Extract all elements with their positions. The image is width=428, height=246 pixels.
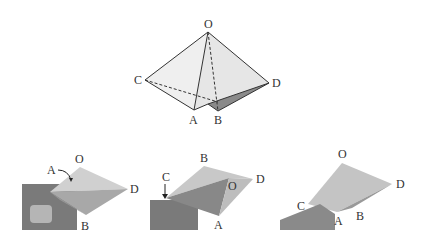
label-A: A — [47, 163, 56, 177]
label-B: B — [214, 113, 222, 127]
label-C: C — [162, 170, 170, 184]
pyramid-folding-figure: O C D A B O A D B B C D O A O — [0, 0, 428, 246]
photo-1: O A D B — [22, 152, 139, 233]
label-C: C — [297, 199, 305, 213]
label-D: D — [396, 177, 405, 191]
photo-2: B C D O A — [150, 151, 265, 232]
photo-3: O D C A B — [280, 147, 405, 230]
label-B: B — [356, 209, 364, 223]
top-pyramid-diagram: O C D A B — [134, 17, 281, 127]
label-O: O — [204, 17, 213, 31]
label-D: D — [272, 76, 281, 90]
label-O: O — [228, 179, 237, 193]
label-A: A — [214, 218, 223, 232]
label-A: A — [334, 214, 343, 228]
label-D: D — [130, 182, 139, 196]
label-O: O — [338, 147, 347, 161]
label-A: A — [189, 113, 198, 127]
label-D: D — [256, 172, 265, 186]
label-O: O — [75, 152, 84, 166]
label-B: B — [81, 219, 89, 233]
label-B: B — [200, 151, 208, 165]
label-C: C — [134, 73, 142, 87]
